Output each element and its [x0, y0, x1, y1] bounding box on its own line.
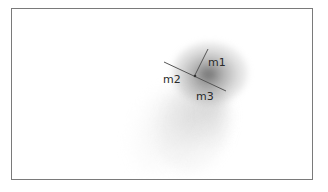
center-point-marker: [194, 75, 197, 78]
label-m3: m3: [196, 91, 214, 102]
m1-measurement-line: [195, 49, 208, 75]
label-m2: m2: [163, 74, 181, 85]
label-m1: m1: [208, 57, 226, 68]
measurement-lines: [0, 0, 328, 192]
